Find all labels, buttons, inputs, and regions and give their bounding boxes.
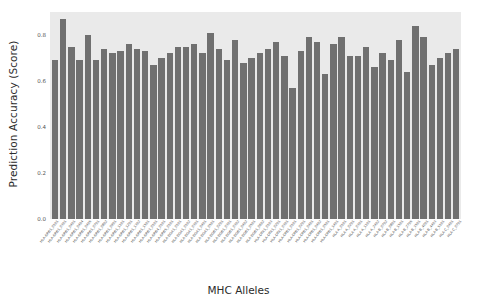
bar [60, 19, 66, 219]
bar [265, 49, 271, 219]
bar [314, 42, 320, 219]
y-axis-title-text: Prediction Accuracy (Score) [7, 40, 19, 187]
bar [232, 40, 238, 219]
bar [207, 33, 213, 219]
y-tick-label: 0.6 [37, 78, 46, 84]
bar [158, 58, 164, 219]
bar [306, 37, 312, 219]
x-axis-tick-labels: HLA-DRB1_0101HLA-DRB1_0301HLA-DRB1_0401H… [50, 220, 461, 282]
bar [93, 60, 99, 219]
bar [101, 49, 107, 219]
bar [150, 65, 156, 219]
bar [52, 60, 58, 219]
bar [273, 42, 279, 219]
bar [76, 60, 82, 219]
bar [175, 47, 181, 220]
bar [134, 49, 140, 219]
y-axis-title: Prediction Accuracy (Score) [2, 0, 24, 228]
bar [199, 53, 205, 219]
bar [109, 53, 115, 219]
bar [429, 65, 435, 219]
bar [117, 51, 123, 219]
bar [379, 53, 385, 219]
bar [126, 44, 132, 219]
bar [257, 53, 263, 219]
plot-area [50, 12, 461, 219]
bar [191, 44, 197, 219]
bar [412, 26, 418, 219]
y-tick-label: 0.8 [37, 32, 46, 38]
bar [420, 37, 426, 219]
bar [281, 56, 287, 219]
bar [183, 47, 189, 220]
bar [437, 58, 443, 219]
y-tick-label: 0.0 [37, 216, 46, 222]
y-axis-tick-labels: 0.00.20.40.60.8 [24, 0, 48, 228]
bar [363, 47, 369, 220]
bar [68, 47, 74, 220]
bar [167, 53, 173, 219]
bar [224, 60, 230, 219]
bar [355, 56, 361, 219]
y-tick-label: 0.2 [37, 170, 46, 176]
bar [371, 67, 377, 219]
bar [347, 56, 353, 219]
bar [404, 72, 410, 219]
bar [289, 88, 295, 219]
bar [248, 58, 254, 219]
bar [298, 51, 304, 219]
bar [240, 63, 246, 219]
x-axis-title: MHC Alleles [0, 284, 477, 296]
bar [388, 60, 394, 219]
bar-chart-figure: Prediction Accuracy (Score) 0.00.20.40.6… [0, 0, 477, 307]
bar [322, 74, 328, 219]
bar-series [50, 12, 461, 219]
bar [396, 40, 402, 219]
bar [142, 51, 148, 219]
bar [338, 37, 344, 219]
bar [445, 53, 451, 219]
bar [85, 35, 91, 219]
bar [330, 44, 336, 219]
bar [453, 49, 459, 219]
y-tick-label: 0.4 [37, 124, 46, 130]
bar [216, 49, 222, 219]
